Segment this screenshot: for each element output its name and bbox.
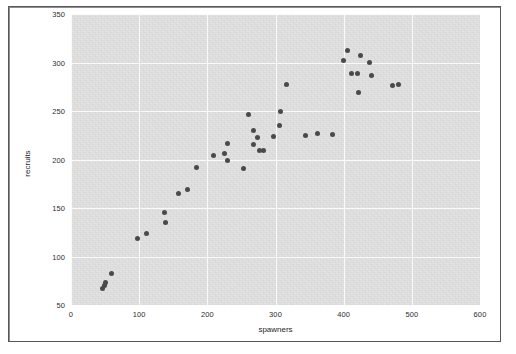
data-point: [176, 191, 181, 196]
data-point: [109, 271, 114, 276]
data-point: [277, 123, 282, 128]
data-point: [390, 83, 395, 88]
data-point: [349, 71, 354, 76]
gridline-y-350: [71, 14, 480, 15]
data-point: [251, 128, 256, 133]
data-point: [367, 60, 372, 65]
data-point: [194, 165, 199, 170]
data-point: [345, 48, 350, 53]
data-point: [358, 53, 363, 58]
data-point: [222, 151, 227, 156]
gridline-y-100: [71, 257, 480, 258]
gridline-y-300: [71, 63, 480, 64]
data-point: [303, 133, 308, 138]
data-point: [211, 153, 216, 158]
data-point: [246, 112, 251, 117]
data-point: [330, 132, 335, 137]
x-tick-label-0: 0: [69, 310, 73, 319]
data-point: [255, 135, 260, 140]
scatter-plot-figure: 50100150200250300350 0100200300400500600…: [0, 0, 516, 354]
data-point: [396, 82, 401, 87]
data-point: [278, 109, 283, 114]
data-point: [103, 280, 108, 285]
y-tick-label-50: 50: [33, 301, 65, 310]
x-tick-label-300: 300: [269, 310, 282, 319]
data-point: [369, 73, 374, 78]
data-point: [315, 131, 320, 136]
x-tick-label-600: 600: [474, 310, 487, 319]
y-axis-label: recruits: [23, 134, 32, 194]
y-tick-label-350: 350: [33, 10, 65, 19]
data-point: [163, 220, 168, 225]
data-point: [225, 158, 230, 163]
data-point: [355, 71, 360, 76]
x-tick-label-100: 100: [133, 310, 146, 319]
y-tick-label-250: 250: [33, 107, 65, 116]
y-tick-label-150: 150: [33, 204, 65, 213]
data-point: [284, 82, 289, 87]
data-point: [135, 236, 140, 241]
data-point: [144, 231, 149, 236]
x-tick-label-500: 500: [405, 310, 418, 319]
data-point: [271, 134, 276, 139]
y-tick-label-100: 100: [33, 252, 65, 261]
data-point: [261, 148, 266, 153]
x-tick-label-400: 400: [337, 310, 350, 319]
gridline-y-150: [71, 208, 480, 209]
data-point: [251, 142, 256, 147]
x-tick-label-200: 200: [201, 310, 214, 319]
data-point: [185, 187, 190, 192]
data-point: [356, 90, 361, 95]
data-point: [225, 141, 230, 146]
y-tick-label-300: 300: [33, 58, 65, 67]
x-axis-label: spawners: [71, 325, 480, 334]
plot-panel: [71, 14, 480, 305]
data-point: [162, 210, 167, 215]
gridline-y-250: [71, 111, 480, 112]
y-tick-label-200: 200: [33, 155, 65, 164]
screenshot-root: 50100150200250300350 0100200300400500600…: [0, 0, 516, 354]
gridline-y-200: [71, 160, 480, 161]
data-point: [241, 166, 246, 171]
